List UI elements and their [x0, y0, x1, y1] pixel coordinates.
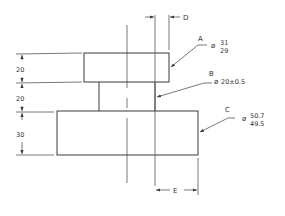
height-top-value: 20	[16, 66, 24, 74]
dimension-d: D	[145, 14, 188, 22]
label-b: B	[209, 70, 214, 78]
diameter-symbol-b: ø	[214, 78, 219, 86]
label-c: C	[225, 106, 230, 114]
dimension-height-top: 20	[16, 55, 24, 82]
diameter-symbol-a: ø	[211, 42, 216, 50]
callout-a-upper: 31	[220, 39, 228, 47]
callout-b-value: 20±0.5	[221, 78, 245, 86]
height-middle-value: 20	[16, 95, 24, 103]
shaft-drawing: D E 20 20 30 A ø 31 29	[0, 0, 285, 216]
section-c	[57, 111, 198, 155]
label-a: A	[198, 35, 203, 43]
callout-a-lower: 29	[220, 47, 228, 55]
dimension-height-middle: 20	[16, 84, 24, 111]
callout-c-upper: 50.7	[250, 112, 264, 120]
callout-c-lower: 49.5	[250, 120, 264, 128]
callout-b: B ø 20±0.5	[157, 70, 245, 97]
label-e: E	[173, 187, 177, 195]
height-bottom-value: 30	[16, 131, 24, 139]
section-a	[84, 53, 169, 82]
callout-c: C ø 50.7 49.5	[200, 106, 264, 132]
label-d: D	[183, 14, 188, 22]
callout-a: A ø 31 29	[171, 35, 228, 67]
dimension-height-bottom: 30	[16, 113, 24, 154]
height-extension-lines	[16, 53, 82, 155]
diameter-symbol-c: ø	[242, 115, 247, 123]
dimension-e: E	[156, 187, 197, 195]
